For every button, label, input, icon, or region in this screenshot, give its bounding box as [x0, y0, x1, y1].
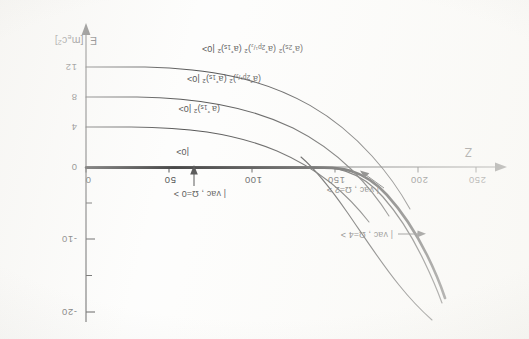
annotation-vac-omega-2: | vac , Ω=2 > [327, 185, 379, 195]
curve-label-ket-1s: (a *1s)2 |0> [178, 104, 220, 115]
rotated-figure-canvas: 0 50 100 150 200 250 Z -20 -10 0 4 8 12 … [0, 0, 529, 339]
curve-label-ket-2s-2p-1s: (a*2s)2 (a*2p1/2)2 (a*1s)2 |0> [202, 42, 303, 55]
y-tick-label-0: 0 [71, 162, 77, 173]
y-axis [82, 23, 95, 322]
x-tick-label-50: 50 [164, 175, 176, 186]
figure-root: 0 50 100 150 200 250 Z -20 -10 0 4 8 12 … [0, 0, 529, 339]
annotation-vac-omega-4: | vac , Ω=4 > [341, 230, 393, 240]
curve-label-ket-0: |0> [176, 147, 189, 157]
y-tick-label-minus10: -10 [61, 234, 77, 245]
x-tick-label-0: 0 [85, 175, 91, 186]
annotation-vac-omega-0: | vac , Ω=0 > [174, 189, 226, 199]
y-axis-unit-open: [m [71, 35, 86, 47]
y-axis-label-symbol: E [90, 35, 97, 47]
x-tick-label-250: 250 [468, 175, 486, 186]
x-tick-label-200: 200 [410, 175, 428, 186]
y-axis-unit-sub: e [67, 33, 71, 41]
y-tick-label-minus20: -20 [61, 307, 77, 318]
y-axis-unit-close: ] [55, 35, 58, 47]
x-axis-label: Z [464, 145, 472, 159]
y-axis-label: E [mec2] [55, 33, 97, 47]
y-axis-unit-sup: 2 [58, 38, 62, 46]
y-tick-label-12: 12 [65, 62, 77, 73]
y-tick-label-8: 8 [71, 92, 77, 103]
curve-label-ket-2p-1s: (a*2p1/2)2 (a*1s)2 |0> [187, 72, 261, 85]
y-axis-unit-c: c [62, 35, 67, 47]
curve-2p-1s [86, 97, 389, 216]
x-tick-label-100: 100 [244, 175, 262, 186]
plot-area: 0 50 100 150 200 250 Z -20 -10 0 4 8 12 … [0, 0, 529, 339]
leader-vac-omega-4 [398, 230, 426, 237]
y-tick-label-4: 4 [71, 122, 77, 133]
